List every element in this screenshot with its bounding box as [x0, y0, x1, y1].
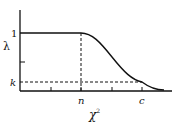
x-axis-label: χ2 — [88, 107, 100, 122]
x-label-n: n — [78, 95, 84, 106]
x-label-c: c — [139, 95, 145, 106]
x-axis-label-sup: 2 — [96, 107, 100, 114]
lambda-chi-square-chart: 1 λ k n c χ2 — [0, 0, 180, 123]
y-axis-label: λ — [3, 40, 10, 53]
lambda-curve — [20, 33, 164, 90]
y-label-one: 1 — [11, 28, 17, 39]
y-label-k: k — [10, 77, 16, 88]
